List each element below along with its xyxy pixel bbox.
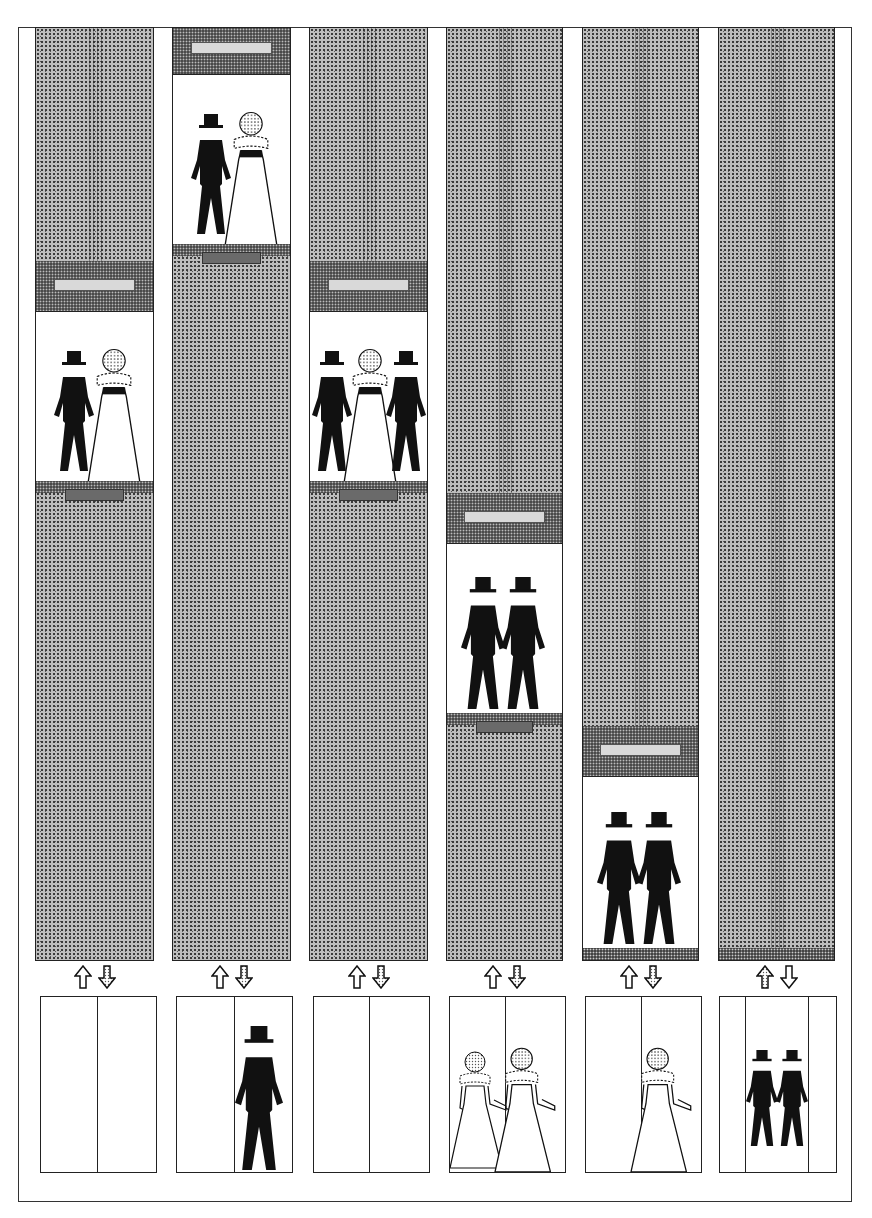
bride-figure xyxy=(223,110,279,245)
elevator-car-4 xyxy=(447,543,562,715)
groom-figure xyxy=(637,807,681,949)
arrow-down-icon xyxy=(235,965,253,989)
car-floor xyxy=(173,244,290,256)
elevator-door-4 xyxy=(449,996,566,1173)
elevator-shaft-4 xyxy=(446,27,563,961)
caption xyxy=(0,1206,872,1218)
groom-figure xyxy=(386,340,426,482)
car-floor xyxy=(447,713,562,725)
groom-figure xyxy=(235,1024,283,1172)
arrow-up-icon xyxy=(484,965,502,989)
cables xyxy=(363,28,377,263)
elevator-shaft-1 xyxy=(35,27,154,961)
groom-figure xyxy=(746,1024,778,1172)
elevator-door-6-open xyxy=(719,996,837,1173)
call-indicator-6 xyxy=(718,965,835,991)
bride-figure xyxy=(494,1044,560,1172)
bride-figure xyxy=(86,347,142,482)
arrow-down-icon xyxy=(780,965,798,989)
call-indicator-3 xyxy=(309,965,428,991)
elevator-shaft-3 xyxy=(309,27,428,961)
car-roof xyxy=(447,493,562,543)
cables xyxy=(771,28,785,948)
call-indicator-2 xyxy=(172,965,291,991)
arrow-up-icon xyxy=(348,965,366,989)
car-floor xyxy=(310,481,427,493)
elevator-door-2 xyxy=(176,996,293,1173)
arrow-up-icon xyxy=(74,965,92,989)
elevator-shaft-6 xyxy=(718,27,835,961)
elevator-shaft-2 xyxy=(172,27,291,961)
cables xyxy=(499,28,513,495)
groom-figure xyxy=(776,1024,808,1172)
car-roof xyxy=(173,28,290,74)
bride-figure xyxy=(630,1044,696,1172)
groom-figure xyxy=(597,807,641,949)
elevator-car-5 xyxy=(583,776,698,950)
arrow-up-icon xyxy=(211,965,229,989)
call-indicator-4 xyxy=(446,965,563,991)
elevator-door-1 xyxy=(40,996,157,1173)
car-floor xyxy=(719,948,834,960)
arrow-up-icon xyxy=(756,965,774,989)
car-floor xyxy=(583,948,698,960)
cables xyxy=(635,28,649,728)
arrow-down-icon xyxy=(508,965,526,989)
arrow-up-icon xyxy=(620,965,638,989)
call-indicator-1 xyxy=(35,965,154,991)
cables xyxy=(89,28,103,263)
car-roof xyxy=(583,726,698,776)
elevator-car-1 xyxy=(36,311,153,483)
arrow-down-icon xyxy=(644,965,662,989)
elevator-car-2 xyxy=(173,74,290,246)
car-roof xyxy=(36,261,153,311)
elevator-car-3 xyxy=(310,311,427,483)
groom-figure xyxy=(501,572,545,714)
arrow-down-icon xyxy=(98,965,116,989)
car-floor xyxy=(36,481,153,493)
call-indicator-5 xyxy=(582,965,699,991)
elevator-shaft-5 xyxy=(582,27,699,961)
car-roof xyxy=(310,261,427,311)
arrow-down-icon xyxy=(372,965,390,989)
elevator-door-5 xyxy=(585,996,702,1173)
groom-figure xyxy=(461,572,505,714)
elevator-door-3 xyxy=(313,996,430,1173)
